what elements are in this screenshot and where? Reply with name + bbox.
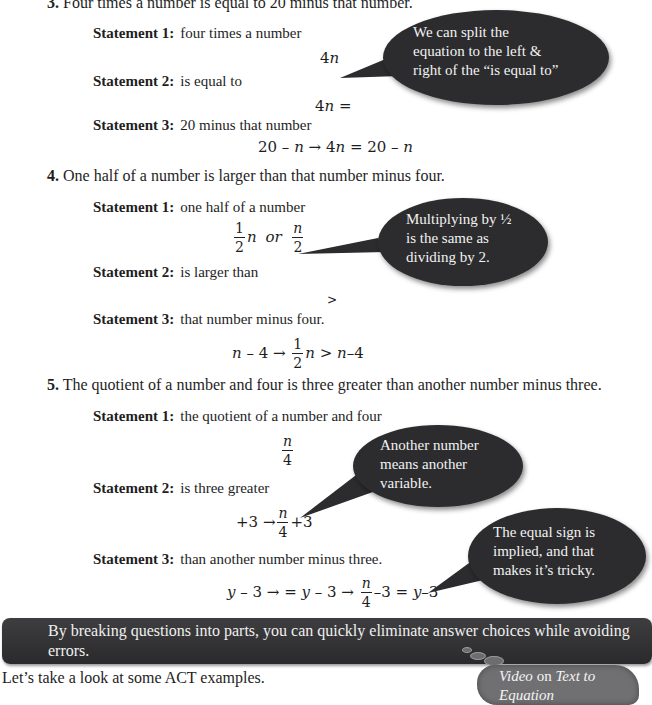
thought-dot-icon xyxy=(462,647,472,653)
callout-split-equation: We can split the equation to the left & … xyxy=(383,10,609,105)
callout-tail-icon xyxy=(298,238,388,258)
callout-implied-equal: The equal sign is implied, and that make… xyxy=(468,508,646,604)
question-5: 5. The quotient of a number and four is … xyxy=(47,376,602,394)
q4-statement-2: Statement 2:is larger than xyxy=(93,264,258,281)
question-4: 4. One half of a number is larger than t… xyxy=(47,167,445,185)
question-3: 3. Four times a number is equal to 20 mi… xyxy=(47,0,413,12)
q5-statement-1-math: n4 xyxy=(280,434,295,467)
callout-another-variable: Another number means another variable. xyxy=(353,425,523,507)
q3-statement-3: Statement 3:20 minus that number xyxy=(93,117,311,134)
q4-statement-1: Statement 1:one half of a number xyxy=(93,199,305,216)
q3-statement-3-math: 20 – n → 4n = 20 – n xyxy=(258,138,413,156)
tip-banner-text: By breaking questions into parts, you ca… xyxy=(48,621,642,661)
q3-statement-1-math: 4n xyxy=(320,49,339,67)
q4-statement-2-math: > xyxy=(327,293,337,307)
tip-banner: By breaking questions into parts, you ca… xyxy=(2,618,652,664)
q4-statement-3: Statement 3:that number minus four. xyxy=(93,311,324,328)
question-text: Four times a number is equal to 20 minus… xyxy=(63,0,413,11)
q5-statement-1: Statement 1:the quotient of a number and… xyxy=(93,408,382,425)
callout-multiply-half: Multiplying by ½ is the same as dividing… xyxy=(378,198,548,286)
video-link-cloud[interactable]: Video on Text to Equation xyxy=(477,665,639,705)
q3-statement-2: Statement 2:is equal to xyxy=(93,73,242,90)
q3-statement-2-math: 4n = xyxy=(315,97,352,115)
q4-statement-1-math: 12n or n2 xyxy=(232,221,305,254)
question-number: 4. xyxy=(47,167,59,184)
q5-statement-3-math: y – 3 → = y – 3 → n4–3 = y–3 xyxy=(227,576,438,609)
footer-text: Let’s take a look at some ACT examples. xyxy=(2,669,265,687)
q5-statement-3: Statement 3:than another number minus th… xyxy=(93,551,382,568)
q4-statement-3-math: n – 4 → 12n > n–4 xyxy=(232,337,364,370)
question-text: The quotient of a number and four is thr… xyxy=(63,376,602,393)
question-number: 3. xyxy=(47,0,59,11)
question-text: One half of a number is larger than that… xyxy=(63,167,445,184)
question-number: 5. xyxy=(47,376,59,393)
q3-statement-1: Statement 1:four times a number xyxy=(93,25,301,42)
q5-statement-2: Statement 2:is three greater xyxy=(93,480,269,497)
